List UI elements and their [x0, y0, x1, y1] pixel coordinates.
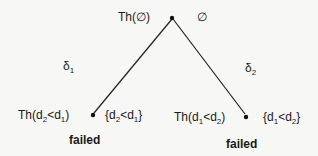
right-status-failed: failed — [226, 137, 257, 151]
root-theory-label: Th(∅) — [118, 10, 150, 24]
root-set-label: ∅ — [197, 10, 207, 24]
left-theory-label: Th(d2<d1) — [18, 108, 69, 122]
edge-label-delta1: δ1 — [63, 59, 74, 73]
right-theory-label: Th(d1<d2) — [174, 110, 225, 124]
tree-edges — [0, 0, 318, 156]
left-node — [91, 113, 95, 117]
left-status-failed: failed — [69, 133, 100, 147]
right-set-label: {d1<d2} — [263, 110, 300, 124]
right-node — [244, 115, 248, 119]
root-node — [170, 16, 174, 20]
edge-label-delta2: δ2 — [245, 61, 256, 75]
edge-delta1 — [94, 19, 172, 113]
edge-delta2 — [173, 19, 245, 114]
left-set-label: {d2<d1} — [105, 108, 142, 122]
